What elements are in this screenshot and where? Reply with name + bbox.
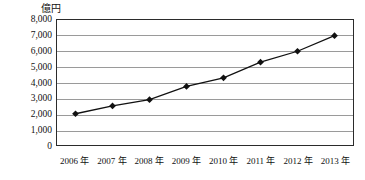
y-axis-tick-label: 8,000	[6, 14, 52, 24]
y-axis-tick-label: 6,000	[6, 46, 52, 56]
x-axis-tick-label: 2013 年	[321, 155, 350, 167]
plot-area	[56, 19, 354, 146]
data-point-marker	[109, 103, 116, 110]
x-axis-tick-label: 2006 年	[60, 155, 89, 167]
line-chart: 億円 8,0007,0006,0005,0004,0003,0002,0001,…	[0, 0, 365, 180]
y-axis-tick-label: 5,000	[6, 62, 52, 72]
data-point-marker	[257, 59, 264, 66]
x-axis-tick-label: 2012 年	[284, 155, 313, 167]
x-axis-tick-label: 2010 年	[209, 155, 238, 167]
y-axis-tick-label: 4,000	[6, 78, 52, 88]
x-axis-tick-label: 2009 年	[172, 155, 201, 167]
data-point-marker	[146, 96, 153, 103]
data-point-marker	[220, 74, 227, 81]
y-axis-tick-label: 1,000	[6, 125, 52, 135]
data-point-marker	[294, 48, 301, 55]
data-point-marker	[183, 83, 190, 90]
data-series	[57, 20, 353, 145]
x-axis-tick-label: 2007 年	[97, 155, 126, 167]
x-axis-tick-label: 2011 年	[246, 155, 275, 167]
x-axis-tick-label: 2008 年	[135, 155, 164, 167]
series-line	[76, 36, 335, 114]
series-markers	[72, 32, 338, 117]
y-axis-tick-label: 7,000	[6, 30, 52, 40]
y-axis-tick-label: 2,000	[6, 109, 52, 119]
data-point-marker	[72, 110, 79, 117]
data-point-marker	[331, 32, 338, 39]
y-axis-tick-label: 3,000	[6, 93, 52, 103]
x-axis-tick-labels: 2006 年2007 年2008 年2009 年2010 年2011 年2012…	[56, 155, 354, 171]
y-axis-tick-label: 0	[6, 141, 52, 151]
